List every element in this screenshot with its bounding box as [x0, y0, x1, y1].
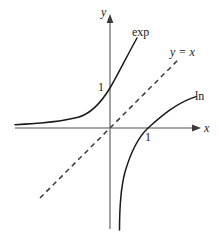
x-axis-arrowhead — [192, 125, 201, 132]
exp-curve-label: exp — [132, 26, 149, 38]
function-graph-figure: y x exp ln y = x 1 1 — [0, 0, 219, 233]
x-axis-tick-label-1: 1 — [145, 131, 151, 143]
ln-curve-label: ln — [195, 90, 204, 102]
y-axis-tick-label-1: 1 — [98, 81, 104, 93]
y-axis-label: y — [101, 6, 106, 18]
plot-canvas — [0, 0, 219, 233]
y-axis-arrowhead — [107, 14, 114, 23]
ln-curve — [120, 97, 197, 230]
x-axis-label: x — [204, 122, 209, 134]
identity-line-dashed — [40, 60, 178, 198]
identity-line-label: y = x — [170, 46, 195, 58]
exp-curve — [15, 38, 137, 125]
